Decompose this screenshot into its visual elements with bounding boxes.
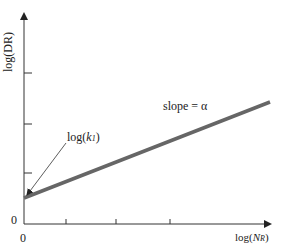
slope-label: slope = α bbox=[163, 100, 207, 112]
y-axis-label: log(DR) bbox=[2, 30, 14, 74]
x-axis-label: log(NR) bbox=[235, 232, 269, 243]
intercept-pre: log( bbox=[67, 130, 86, 144]
x-label-post: ) bbox=[265, 231, 269, 243]
diagram-canvas bbox=[0, 0, 283, 252]
x-origin-label: 0 bbox=[20, 232, 26, 244]
x-label-var: N bbox=[253, 231, 260, 243]
intercept-label: log(k1) bbox=[67, 131, 100, 143]
x-ticks bbox=[66, 219, 170, 224]
x-label-pre: log( bbox=[235, 231, 253, 243]
y-origin-label: 0 bbox=[11, 214, 17, 226]
log-log-diagram: log(DR) 0 0 log(NR) log(k1) slope = α bbox=[0, 0, 283, 252]
intercept-post: ) bbox=[96, 130, 100, 144]
y-ticks bbox=[24, 73, 32, 173]
intercept-arrow bbox=[27, 143, 66, 195]
